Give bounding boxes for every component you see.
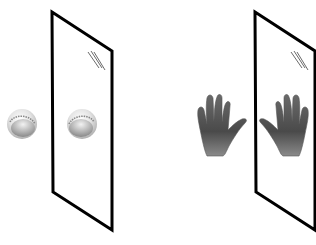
hand-panel (198, 12, 315, 230)
left-hand-icon (198, 94, 247, 156)
baseball-icon (7, 109, 37, 139)
figure-canvas (0, 0, 316, 245)
mirror-reflection-figure (0, 0, 316, 245)
baseball-panel (7, 12, 112, 230)
baseball-reflection-icon (67, 109, 97, 139)
